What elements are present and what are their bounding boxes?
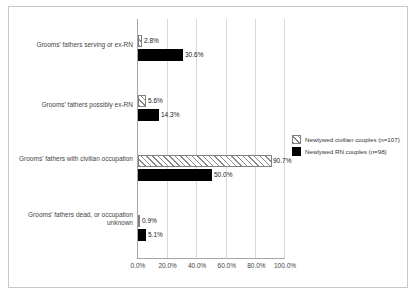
bar-value-civilian-2: 90.7% <box>273 158 291 165</box>
gridline-100 <box>284 19 285 259</box>
category-axis-line <box>137 258 285 259</box>
xtick-label-4: 80.0% <box>247 262 265 269</box>
legend-item-rn[interactable]: Newlywed RN couples (n=98) <box>292 147 404 156</box>
legend-swatch-rn-icon <box>292 147 301 156</box>
bar-rn-2[interactable] <box>138 169 212 181</box>
bar-rn-1[interactable] <box>138 109 159 121</box>
bar-value-rn-2: 50.0% <box>214 172 232 179</box>
bar-value-rn-3: 5.1% <box>148 232 163 239</box>
bar-value-rn-1: 14.3% <box>161 112 179 119</box>
category-label-0: Grooms' fathers serving or ex-RN <box>17 41 133 49</box>
xtick-label-1: 20.0% <box>158 262 176 269</box>
chart-container: Grooms' fathers serving or ex-RN Grooms'… <box>8 6 408 288</box>
bar-value-civilian-3: 0.9% <box>142 218 157 225</box>
bar-civilian-0[interactable] <box>138 35 142 47</box>
xtick-label-2: 40.0% <box>188 262 206 269</box>
chart-legend: Newlywed civilian couples (n=107) Newlyw… <box>292 135 404 159</box>
category-label-2: Grooms' fathers with civilian occupation <box>17 155 133 163</box>
xtick-label-5: 100.0% <box>274 262 296 269</box>
xtick-label-3: 60.0% <box>218 262 236 269</box>
bar-civilian-3[interactable] <box>138 215 140 227</box>
legend-label-civilian: Newlywed civilian couples (n=107) <box>305 136 400 143</box>
gridline-80 <box>255 19 256 259</box>
bar-civilian-2[interactable] <box>138 155 272 167</box>
category-label-3: Grooms' fathers dead, or occupation unkn… <box>17 211 133 227</box>
bar-rn-3[interactable] <box>138 229 146 241</box>
bar-value-rn-0: 30.6% <box>185 52 203 59</box>
bar-value-civilian-0: 2.8% <box>144 38 159 45</box>
bar-rn-0[interactable] <box>138 49 183 61</box>
category-label-1: Grooms' fathers possibly ex-RN <box>17 101 133 109</box>
legend-item-civilian[interactable]: Newlywed civilian couples (n=107) <box>292 135 404 144</box>
legend-label-rn: Newlywed RN couples (n=98) <box>305 148 387 155</box>
bar-civilian-1[interactable] <box>138 95 146 107</box>
category-axis-labels: Grooms' fathers serving or ex-RN Grooms'… <box>17 19 133 259</box>
gridline-60 <box>226 19 227 259</box>
xtick-label-0: 0.0% <box>131 262 146 269</box>
bar-value-civilian-1: 5.6% <box>148 98 163 105</box>
legend-swatch-civilian-icon <box>292 135 301 144</box>
plot-area: 2.8% 30.6% 5.6% 14.3% 90.7% 50.0% 0.9% 5… <box>137 19 285 259</box>
